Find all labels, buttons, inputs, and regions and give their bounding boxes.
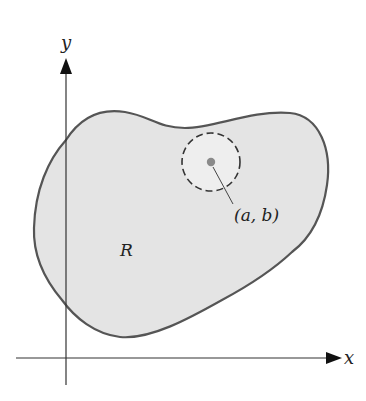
region-diagram: y x R (a, b): [0, 0, 366, 401]
region-label: R: [119, 240, 133, 260]
x-axis-arrow-icon: [326, 352, 342, 364]
point-label: (a, b): [234, 205, 279, 225]
point-dot: [207, 158, 215, 166]
y-axis-arrow-icon: [60, 58, 72, 74]
y-axis-label: y: [60, 32, 72, 53]
region-r-shape: [34, 111, 328, 337]
x-axis-label: x: [344, 347, 354, 368]
